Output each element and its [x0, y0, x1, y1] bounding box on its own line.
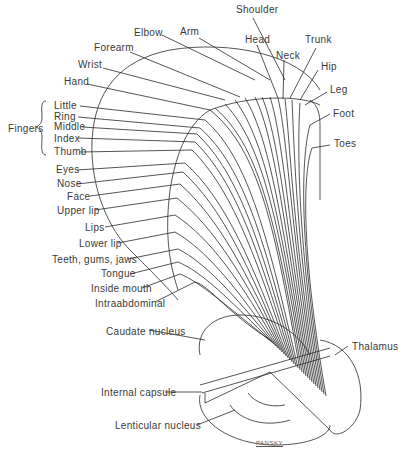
label-hip: Hip — [321, 61, 337, 72]
label-trunk: Trunk — [305, 34, 332, 45]
internal-capsule — [200, 348, 330, 430]
label-elbow: Elbow — [134, 27, 163, 38]
label-face: Face — [67, 191, 90, 202]
label-arm: Arm — [180, 26, 199, 37]
label-tongue: Tongue — [101, 268, 136, 279]
thalamus-outline — [320, 340, 361, 434]
label-internal-capsule: Internal capsule — [101, 387, 176, 398]
label-hand: Hand — [64, 76, 89, 87]
label-lips: Lips — [85, 222, 105, 233]
motor-homunculus-diagram: Shoulder Arm Elbow Head Trunk Neck Hip F… — [0, 0, 398, 451]
label-thalamus: Thalamus — [352, 341, 398, 352]
label-finger-little: Little — [54, 100, 77, 111]
label-lenticular-nucleus: Lenticular nucleus — [115, 420, 201, 431]
label-wrist: Wrist — [78, 59, 102, 70]
label-finger-index: Index — [54, 133, 80, 144]
label-head: Head — [245, 34, 270, 45]
diagram-drawing — [0, 0, 398, 451]
label-intraabdominal: Intraabdominal — [95, 298, 165, 309]
label-shoulder: Shoulder — [236, 4, 278, 15]
label-eyes: Eyes — [56, 164, 79, 175]
label-foot: Foot — [333, 108, 354, 119]
label-caudate-nucleus: Caudate nucleus — [106, 326, 186, 337]
artist-signature: PANSKY — [256, 440, 283, 446]
label-nose: Nose — [57, 178, 82, 189]
lenticular-outline — [200, 395, 330, 445]
label-inside-mouth: Inside mouth — [91, 283, 152, 294]
label-teeth-gums-jaws: Teeth, gums, jaws — [52, 254, 137, 265]
label-upper-lip: Upper lip — [57, 205, 100, 216]
label-lower-lip: Lower lip — [79, 238, 122, 249]
label-neck: Neck — [276, 50, 300, 61]
label-fingers: Fingers — [8, 123, 43, 134]
projection-fibers — [175, 97, 326, 396]
label-toes: Toes — [334, 138, 356, 149]
label-leg: Leg — [330, 84, 348, 95]
label-finger-middle: Middle — [54, 121, 85, 132]
label-forearm: Forearm — [94, 42, 134, 53]
label-finger-thumb: Thumb — [54, 146, 87, 157]
